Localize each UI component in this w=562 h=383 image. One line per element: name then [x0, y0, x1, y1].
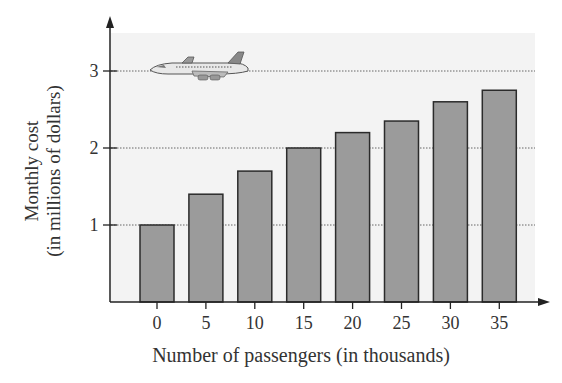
y-axis-label: Monthly cost (in millions of dollars): [21, 66, 65, 276]
bar: [238, 171, 272, 302]
x-tick-label: 0: [153, 313, 162, 333]
y-axis-label-line2: (in millions of dollars): [43, 66, 65, 276]
x-tick-label: 35: [490, 313, 508, 333]
y-axis-label-line1: Monthly cost: [21, 66, 43, 276]
bar-chart: 123 05101520253035: [0, 0, 562, 383]
bar: [140, 225, 174, 302]
y-axis-arrow-icon: [106, 16, 114, 28]
y-tick-label: 2: [90, 138, 99, 158]
y-tick-label: 3: [90, 61, 99, 81]
x-ticks: 05101520253035: [153, 302, 509, 333]
bar: [287, 148, 321, 302]
x-tick-label: 20: [344, 313, 362, 333]
bar: [385, 121, 419, 302]
x-axis-label: Number of passengers (in thousands): [0, 344, 562, 367]
x-tick-label: 10: [246, 313, 264, 333]
x-tick-label: 30: [441, 313, 459, 333]
x-tick-label: 15: [295, 313, 313, 333]
x-tick-label: 5: [201, 313, 210, 333]
x-tick-label: 25: [393, 313, 411, 333]
bar: [336, 133, 370, 302]
bar: [482, 90, 516, 302]
bar: [433, 102, 467, 302]
y-tick-label: 1: [90, 215, 99, 235]
x-axis-arrow-icon: [538, 298, 550, 306]
bar: [189, 194, 223, 302]
